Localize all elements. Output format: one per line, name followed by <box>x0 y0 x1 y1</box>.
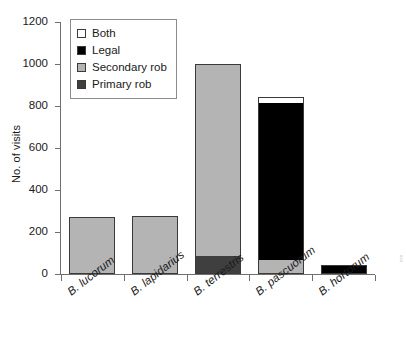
y-tick-label: 1200 <box>8 16 48 28</box>
bar-group[interactable] <box>249 22 312 274</box>
bar-group[interactable] <box>187 22 250 274</box>
y-tick-label: 600 <box>8 142 48 154</box>
legend-swatch-icon <box>77 46 86 55</box>
legend-item[interactable]: Secondary rob <box>77 59 167 76</box>
legend-swatch-icon <box>77 80 86 89</box>
legend-item[interactable]: Primary rob <box>77 76 167 93</box>
chart-legend: BothLegalSecondary robPrimary rob <box>70 19 177 99</box>
bar-group[interactable] <box>312 22 375 274</box>
legend-swatch-icon <box>77 63 86 72</box>
bar-chart: No. of visits 120010008006004002000 B. l… <box>0 0 406 350</box>
legend-item-label: Legal <box>92 45 120 57</box>
y-tick-label: 200 <box>8 226 48 238</box>
x-tick-mark <box>375 275 376 281</box>
bar-stack[interactable] <box>258 97 304 274</box>
y-tick-label: 0 <box>8 268 48 280</box>
x-tick-mark <box>187 275 188 281</box>
y-tick-label: 400 <box>8 184 48 196</box>
legend-item[interactable]: Both <box>77 25 167 42</box>
legend-item-label: Both <box>92 28 116 40</box>
bar-segment[interactable] <box>195 64 241 256</box>
x-tick-mark <box>249 275 250 281</box>
y-tick-label: 800 <box>8 100 48 112</box>
legend-swatch-icon <box>77 29 86 38</box>
legend-item[interactable]: Legal <box>77 42 167 59</box>
x-tick-mark <box>312 275 313 281</box>
y-tick-label: 1000 <box>8 58 48 70</box>
scan-margin-artifact: iiiiii <box>394 255 404 337</box>
bar-segment[interactable] <box>258 103 304 261</box>
legend-item-label: Primary rob <box>92 79 151 91</box>
x-tick-mark <box>124 275 125 281</box>
legend-item-label: Secondary rob <box>92 62 167 74</box>
bar-stack[interactable] <box>195 64 241 274</box>
x-tick-mark <box>61 275 62 281</box>
